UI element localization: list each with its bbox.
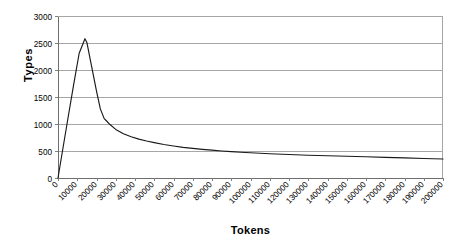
x-axis-title: Tokens [58, 224, 443, 236]
x-tick-label: 10000 [56, 180, 79, 203]
tickmarks-group [55, 17, 444, 182]
x-tick-label: 60000 [153, 180, 176, 203]
y-tick-label: 2000 [34, 67, 53, 76]
y-tick-label: 2500 [34, 40, 53, 49]
x-tick-labels-group: 0100002000030000400005000060000700008000… [50, 180, 445, 206]
y-tick-label: 3000 [34, 13, 53, 22]
gridlines-group [58, 17, 443, 152]
x-tick-label: 0 [50, 180, 60, 190]
x-tick-label: 40000 [114, 180, 137, 203]
series-group [58, 39, 443, 178]
chart-figure: Types 050010001500200025003000 010000200… [0, 0, 455, 247]
y-tick-label: 1500 [34, 94, 53, 103]
x-tick-label: 70000 [172, 180, 195, 203]
y-tick-label: 1000 [34, 121, 53, 130]
y-tick-labels-group: 050010001500200025003000 [34, 13, 53, 184]
x-tick-label: 30000 [95, 180, 118, 203]
y-tick-label: 500 [38, 148, 52, 157]
x-tick-label: 20000 [76, 180, 99, 203]
line-chart-plot: 050010001500200025003000 010000200003000… [0, 0, 455, 247]
x-tick-label: 50000 [133, 180, 156, 203]
x-tick-label: 80000 [191, 180, 214, 203]
series-line-types-per-token [58, 39, 443, 178]
